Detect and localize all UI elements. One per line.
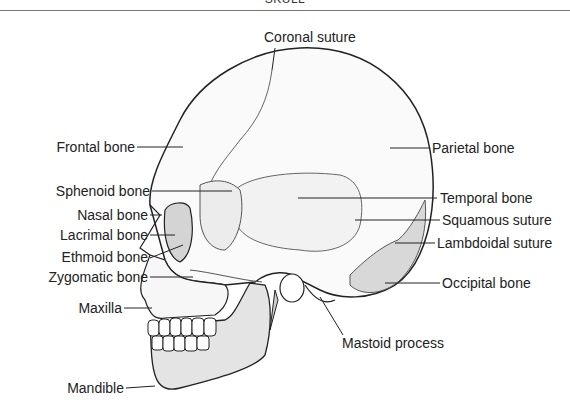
label-maxilla: Maxilla [20,300,122,316]
label-squamous-suture: Squamous suture [442,212,552,228]
label-parietal-bone: Parietal bone [432,140,515,156]
label-mandible: Mandible [20,380,124,396]
label-frontal-bone: Frontal bone [20,139,135,155]
label-lacrimal-bone: Lacrimal bone [10,227,148,243]
label-zygomatic-bone: Zygomatic bone [5,269,148,285]
label-temporal-bone: Temporal bone [440,190,533,206]
label-coronal-suture: Coronal suture [264,29,356,45]
label-nasal-bone: Nasal bone [10,207,148,223]
label-mastoid-process: Mastoid process [342,335,444,351]
label-sphenoid-bone: Sphenoid bone [10,183,150,199]
label-occipital-bone: Occipital bone [442,275,531,291]
label-ethmoid-bone: Ethmoid bone [10,249,148,265]
label-lambdoidal-suture: Lambdoidal suture [437,235,552,251]
